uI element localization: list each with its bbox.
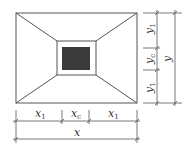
dim-label-y1-top: y1 bbox=[143, 23, 157, 35]
dim-label-yc: yc bbox=[143, 54, 157, 65]
dim-label-y-total: y bbox=[161, 55, 174, 63]
dim-label-x1-right: x1 bbox=[108, 107, 119, 121]
dim-label-y1-bottom: y1 bbox=[143, 82, 157, 94]
diagonal-bottom-left bbox=[16, 75, 57, 103]
diagonal-top-left bbox=[16, 13, 57, 41]
dim-label-x1-left: x1 bbox=[35, 107, 46, 121]
dim-label-xc: xc bbox=[71, 107, 81, 121]
diagonal-top-right bbox=[96, 13, 137, 41]
column-section bbox=[62, 47, 90, 70]
diagonal-bottom-right bbox=[96, 75, 137, 103]
footing-plan-diagram: x1 xc x1 x y1 yc y1 y bbox=[0, 0, 192, 154]
dim-label-x-total: x bbox=[74, 126, 81, 139]
